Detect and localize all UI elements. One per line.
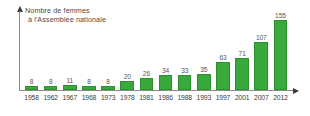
- x-axis-tick-label: 2001: [233, 94, 252, 101]
- bar-value-label: 8: [82, 78, 97, 85]
- x-axis-line: [19, 90, 294, 91]
- bar-slot: 8: [82, 11, 97, 90]
- bar-slot: 155: [273, 11, 288, 90]
- x-axis-tick-label: 1988: [175, 94, 194, 101]
- bar-slot: 63: [216, 11, 231, 90]
- x-axis-tick-label: 1958: [22, 94, 41, 101]
- bar[interactable]: [120, 81, 134, 90]
- bar[interactable]: [274, 20, 288, 90]
- y-axis-line: [19, 11, 20, 91]
- x-axis-tick-label: 2007: [252, 94, 271, 101]
- bar-value-label: 20: [120, 73, 135, 80]
- bar[interactable]: [25, 86, 39, 90]
- bar[interactable]: [254, 42, 268, 90]
- x-axis-tick-label: 2012: [271, 94, 290, 101]
- bar-chart: Nombre de femmes à l'Assemblée nationale…: [0, 0, 310, 116]
- x-axis-tick-label: 1986: [156, 94, 175, 101]
- bar[interactable]: [101, 86, 115, 90]
- bar[interactable]: [159, 75, 173, 90]
- bar-slot: 34: [158, 11, 173, 90]
- bar-value-label: 8: [24, 78, 39, 85]
- bar-slot: 8: [24, 11, 39, 90]
- bar[interactable]: [216, 62, 230, 90]
- x-axis-tick-label: 1997: [214, 94, 233, 101]
- bar-value-label: 8: [101, 78, 116, 85]
- bar[interactable]: [82, 86, 96, 90]
- bar-slot: 8: [101, 11, 116, 90]
- bar-slot: 11: [62, 11, 77, 90]
- bar[interactable]: [235, 58, 249, 90]
- bar-value-label: 11: [62, 77, 77, 84]
- bar-slot: 33: [177, 11, 192, 90]
- bar-value-label: 34: [158, 67, 173, 74]
- x-axis-tick-label: 1968: [80, 94, 99, 101]
- bar[interactable]: [63, 85, 77, 90]
- x-axis-arrow-icon: [293, 88, 299, 94]
- bar-slot: 107: [254, 11, 269, 90]
- x-axis-tick-labels: 1958196219671968197319781981198619881993…: [22, 94, 290, 108]
- x-axis-tick-label: 1973: [99, 94, 118, 101]
- x-axis-tick-label: 1993: [194, 94, 213, 101]
- bar-slot: 26: [139, 11, 154, 90]
- bar[interactable]: [44, 86, 58, 90]
- bar-slot: 8: [43, 11, 58, 90]
- x-axis-tick-label: 1962: [41, 94, 60, 101]
- plot-area: 88118820263433356371107155: [22, 11, 290, 90]
- bar[interactable]: [178, 75, 192, 90]
- bar-slot: 71: [235, 11, 250, 90]
- bar[interactable]: [140, 78, 154, 90]
- bar-value-label: 8: [43, 78, 58, 85]
- bar-value-label: 155: [273, 12, 288, 19]
- bar-value-label: 35: [196, 66, 211, 73]
- bar[interactable]: [197, 74, 211, 90]
- x-axis-tick-label: 1978: [118, 94, 137, 101]
- bar-value-label: 33: [177, 67, 192, 74]
- bar-slot: 20: [120, 11, 135, 90]
- bar-value-label: 107: [254, 34, 269, 41]
- bar-slot: 35: [196, 11, 211, 90]
- x-axis-tick-label: 1967: [60, 94, 79, 101]
- bar-value-label: 63: [216, 54, 231, 61]
- bar-value-label: 71: [235, 50, 250, 57]
- x-axis-tick-label: 1981: [137, 94, 156, 101]
- bar-value-label: 26: [139, 70, 154, 77]
